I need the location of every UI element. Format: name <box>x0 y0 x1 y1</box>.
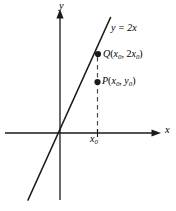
graph-canvas <box>0 0 176 211</box>
line-equation-label: y = 2x <box>111 23 137 33</box>
x-axis-arrowhead <box>152 129 162 136</box>
y-axis-label: y <box>59 1 64 12</box>
figure-coordinate-plane: y x y = 2x Q(x0, 2x0) P(x0, y0) x0 <box>0 0 176 211</box>
x0-tick-subscript: 0 <box>94 138 97 145</box>
point-q-dot <box>95 51 101 57</box>
point-p-paren-close: ) <box>132 75 135 86</box>
point-q-paren-close: ) <box>139 48 142 59</box>
point-p-label: P(x0, y0) <box>102 76 136 88</box>
line-y-equals-2x <box>28 18 111 201</box>
point-q-separator: , 2 <box>121 48 131 59</box>
x0-tick-label: x0 <box>90 134 98 146</box>
x-axis-label: x <box>165 125 170 136</box>
point-q-label: Q(x0, 2x0) <box>103 49 143 61</box>
point-p-dot <box>94 79 100 85</box>
